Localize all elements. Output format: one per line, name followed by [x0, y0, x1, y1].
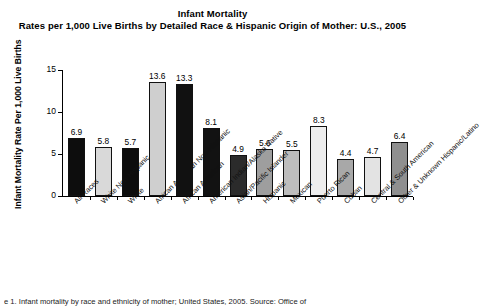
- bar: 13.6: [149, 82, 166, 196]
- bar-value-label: 8.1: [205, 117, 217, 127]
- bar-value-label: 6.9: [71, 127, 83, 137]
- y-tick-mark: [58, 196, 62, 197]
- y-tick-mark: [58, 112, 62, 113]
- bar-value-label: 5.7: [124, 137, 136, 147]
- figure-caption: e 1. Infant mortality by race and ethnic…: [4, 297, 434, 307]
- y-axis-line: [62, 70, 63, 197]
- bar-value-label: 13.3: [176, 73, 192, 83]
- bar-value-label: 4.7: [367, 146, 379, 156]
- bar-value-label: 5.5: [286, 139, 298, 149]
- y-tick-label: 5: [51, 148, 56, 159]
- y-tick-label: 15: [47, 64, 56, 75]
- y-tick-label: 0: [51, 190, 56, 201]
- bar-value-label: 13.6: [149, 71, 165, 81]
- bar-value-label: 5.8: [98, 136, 110, 146]
- y-tick-mark: [58, 154, 62, 155]
- chart-title-subtitle: Rates per 1,000 Live Births by Detailed …: [0, 20, 425, 32]
- x-axis-labels: All RacesWhite Non-HispanicWhiteAfrican …: [63, 199, 425, 299]
- bar-value-label: 6.4: [394, 131, 406, 141]
- y-tick-label: 10: [47, 106, 56, 117]
- bar-value-label: 8.3: [313, 115, 325, 125]
- y-axis-title: Infant Mortality Rate Per 1,000 Live Bir…: [13, 0, 27, 54]
- chart-title-primary: Infant Mortality: [0, 8, 425, 20]
- bar-value-label: 4.4: [340, 148, 352, 158]
- chart-title-block: Infant Mortality Rates per 1,000 Live Bi…: [0, 8, 425, 32]
- y-tick-mark: [58, 70, 62, 71]
- bar-value-label: 4.9: [232, 144, 244, 154]
